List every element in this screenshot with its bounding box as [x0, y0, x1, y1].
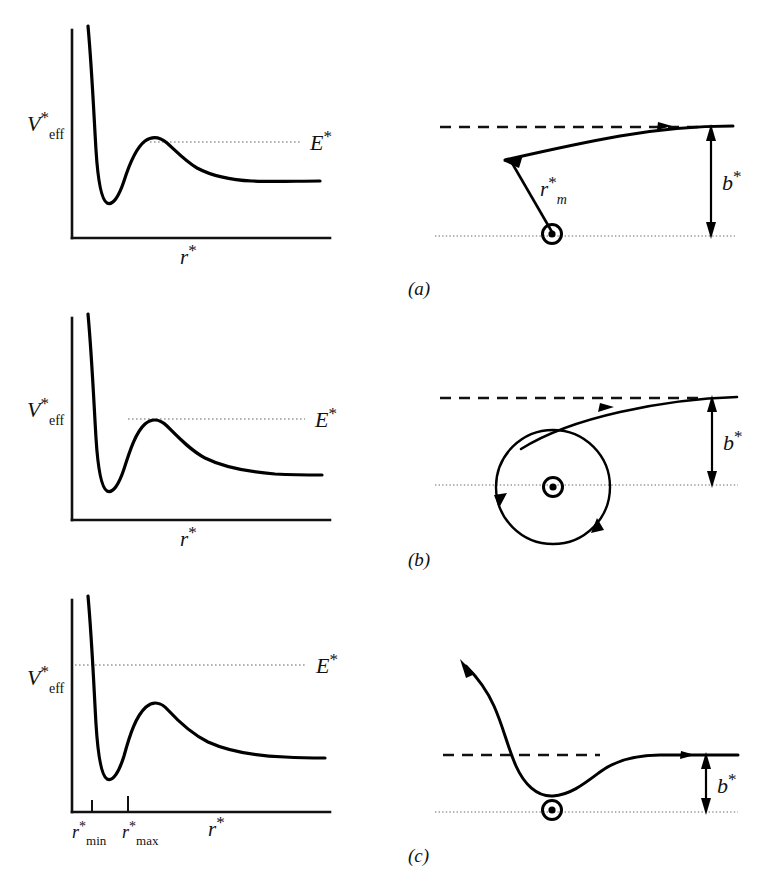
- trajectory-plot-c: b*: [435, 659, 738, 820]
- rmax-star-c: *: [129, 819, 136, 834]
- energy-label-star-b: *: [328, 404, 337, 423]
- trajectory-arrowhead-b: [598, 403, 614, 412]
- energy-label-a: E*: [309, 127, 332, 155]
- potential-plot-a: V*eff r* E*: [27, 26, 332, 269]
- panel-label-c: (c): [408, 845, 429, 867]
- svg-text:E*: E*: [314, 404, 337, 432]
- potential-curve-a: [88, 26, 320, 204]
- potential-curve-b: [88, 314, 322, 492]
- trajectory-plot-b: b*: [435, 395, 743, 544]
- rmax-sub-c: max: [136, 833, 159, 848]
- y-label-star-a: *: [40, 108, 49, 127]
- energy-label-main-a: E: [309, 130, 324, 155]
- y-label-sub-b: eff: [49, 413, 65, 428]
- impact-parameter-label-a: b*: [722, 167, 742, 195]
- panel-label-a: (a): [408, 278, 430, 300]
- impact-parameter-arrow-c: [701, 752, 711, 815]
- svg-text:r*min: r*min: [72, 819, 107, 848]
- potential-plot-b: V*eff r* E*: [27, 314, 337, 551]
- svg-text:r*m: r*m: [540, 173, 567, 207]
- trajectory-curve-c: [466, 666, 738, 796]
- svg-text:b*: b*: [717, 770, 737, 798]
- b-label-star-b: *: [734, 427, 743, 446]
- figure-canvas: V*eff r* E*: [0, 0, 765, 882]
- y-axis-label-a: V*eff: [27, 108, 65, 142]
- trajectory-plot-a: r*m b*: [435, 122, 742, 244]
- orbit-arrowhead-right-b: [591, 518, 604, 533]
- trajectory-curve-a: [505, 126, 733, 160]
- svg-text:V*eff: V*eff: [27, 108, 65, 142]
- x-axis-label-c: r*: [208, 813, 225, 841]
- rmin-star-c: *: [79, 819, 86, 834]
- svg-text:E*: E*: [315, 650, 338, 678]
- panel-label-b: (b): [408, 549, 430, 571]
- tick-label-rmax-c: r*max: [122, 819, 159, 848]
- target-center-icon-c: [543, 801, 562, 820]
- orbit-arrowhead-left-b: [494, 493, 507, 508]
- potential-plot-c: r*min r*max V*eff r* E*: [27, 596, 338, 848]
- rm-label-star-a: *: [548, 173, 557, 192]
- svg-text:b*: b*: [722, 167, 742, 195]
- energy-label-b: E*: [314, 404, 337, 432]
- x-label-star-a: *: [188, 241, 197, 260]
- row-a: V*eff r* E*: [27, 26, 742, 300]
- svg-text:r*max: r*max: [122, 819, 159, 848]
- energy-label-star-c: *: [329, 650, 338, 669]
- svg-text:E*: E*: [309, 127, 332, 155]
- y-label-star-c: *: [40, 662, 49, 681]
- impact-parameter-label-c: b*: [717, 770, 737, 798]
- potential-curve-c: [88, 596, 325, 780]
- b-label-main-b: b: [723, 430, 734, 455]
- svg-text:r*: r*: [180, 241, 197, 269]
- y-label-sub-a: eff: [49, 127, 65, 142]
- svg-text:V*eff: V*eff: [27, 394, 65, 428]
- svg-text:r*: r*: [208, 813, 225, 841]
- tick-label-rmin-c: r*min: [72, 819, 107, 848]
- svg-text:b*: b*: [723, 427, 743, 455]
- impact-parameter-arrow-a: [706, 124, 716, 239]
- b-label-main-a: b: [722, 170, 733, 195]
- y-label-sub-c: eff: [49, 681, 65, 696]
- x-label-star-c: *: [216, 813, 225, 832]
- y-axis-label-c: V*eff: [27, 662, 65, 696]
- trajectory-arrowhead-c: [680, 751, 695, 759]
- impact-parameter-label-b: b*: [723, 427, 743, 455]
- rmin-sub-c: min: [86, 833, 107, 848]
- b-label-star-c: *: [728, 770, 737, 789]
- row-b: V*eff r* E*: [27, 314, 743, 571]
- energy-label-star-a: *: [323, 127, 332, 146]
- b-label-star-a: *: [733, 167, 742, 186]
- row-c: r*min r*max V*eff r* E*: [27, 596, 738, 867]
- svg-text:r*: r*: [180, 523, 197, 551]
- y-axis-label-b: V*eff: [27, 394, 65, 428]
- y-label-star-b: *: [40, 394, 49, 413]
- target-center-icon-b: [544, 478, 563, 497]
- x-axis-label-b: r*: [180, 523, 197, 551]
- target-center-icon-a: [543, 225, 562, 244]
- x-label-star-b: *: [188, 523, 197, 542]
- trajectory-inbound-b: [521, 397, 737, 449]
- energy-label-c: E*: [315, 650, 338, 678]
- b-label-main-c: b: [717, 773, 728, 798]
- svg-text:V*eff: V*eff: [27, 662, 65, 696]
- impact-parameter-arrow-b: [707, 395, 717, 488]
- closest-approach-label-a: r*m: [540, 173, 567, 207]
- energy-label-main-b: E: [314, 407, 329, 432]
- x-axis-label-a: r*: [180, 241, 197, 269]
- energy-label-main-c: E: [315, 653, 330, 678]
- rm-label-sub-a: m: [557, 192, 567, 207]
- scattering-figure: V*eff r* E*: [0, 0, 765, 882]
